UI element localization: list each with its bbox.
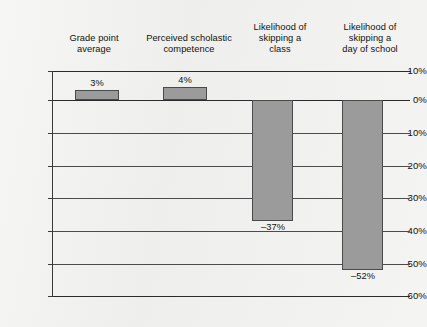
value-label-likelihood-skipping-day-of-school: –52% [338,271,388,281]
value-label-perceived-scholastic-competence: 4% [163,75,207,85]
value-label-likelihood-skipping-class: –37% [248,222,298,232]
value-labels-layer: 3% 4% –37% –52% [0,0,427,327]
chart-figure: Grade point average Perceived scholastic… [0,0,427,327]
value-label-grade-point-average: 3% [75,78,119,88]
